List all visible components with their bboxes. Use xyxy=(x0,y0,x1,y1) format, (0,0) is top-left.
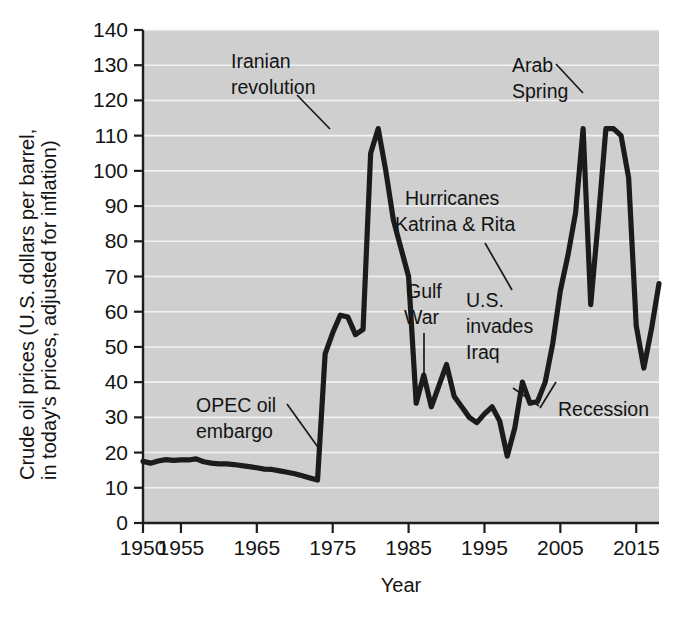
oil-price-line-chart: 0102030405060708090100110120130140 19501… xyxy=(0,0,679,624)
annotation-iranian-revolution-line-0: Iranian xyxy=(231,50,291,72)
x-tick-label: 1955 xyxy=(158,536,205,559)
x-tick-label: 1975 xyxy=(309,536,356,559)
annotation-gulf-war-line-1: War xyxy=(404,306,440,328)
y-tick-label: 80 xyxy=(105,229,128,252)
annotation-us-invades-iraq-line-2: Iraq xyxy=(466,341,500,363)
y-tick-label: 20 xyxy=(105,441,128,464)
y-tick-label: 0 xyxy=(116,511,128,534)
annotation-recession: Recession xyxy=(558,398,649,420)
y-axis-title-line-2: in today's prices, adjusted for inflatio… xyxy=(38,140,60,480)
y-tick-label: 50 xyxy=(105,335,128,358)
x-axis-ticks xyxy=(143,523,636,533)
x-tick-label: 2015 xyxy=(613,536,660,559)
y-axis-title-line-1: Crude oil prices (U.S. dollars per barre… xyxy=(16,129,38,480)
y-axis-tick-labels: 0102030405060708090100110120130140 xyxy=(93,18,128,534)
y-tick-label: 40 xyxy=(105,370,128,393)
annotation-gulf-war-line-0: Gulf xyxy=(406,280,442,302)
annotation-arab-spring-line-0: Arab xyxy=(512,54,553,76)
annotation-opec-line-1: embargo xyxy=(196,420,273,442)
x-axis-title: Year xyxy=(381,574,422,596)
x-axis-tick-labels: 19501955196519751985199520052015 xyxy=(120,536,660,559)
y-axis-ticks xyxy=(134,30,143,523)
annotation-us-invades-iraq-line-0: U.S. xyxy=(466,289,504,311)
annotation-hurricanes-line-0: Hurricanes xyxy=(405,187,500,209)
annotation-opec-line-0: OPEC oil xyxy=(196,394,276,416)
annotation-recession-line-0: Recession xyxy=(558,398,649,420)
annotation-iranian-revolution-line-1: revolution xyxy=(231,76,316,98)
x-tick-label: 1995 xyxy=(461,536,508,559)
annotation-hurricanes-line-1: Katrina & Rita xyxy=(395,213,515,235)
annotation-arab-spring-line-1: Spring xyxy=(512,80,568,102)
y-tick-label: 120 xyxy=(93,88,128,111)
y-tick-label: 110 xyxy=(95,124,128,147)
annotation-us-invades-iraq-line-1: invades xyxy=(466,315,533,337)
y-tick-label: 90 xyxy=(105,194,128,217)
chart-container: 0102030405060708090100110120130140 19501… xyxy=(0,0,679,624)
y-tick-label: 100 xyxy=(93,159,128,182)
x-tick-label: 2005 xyxy=(537,536,584,559)
y-axis-title: Crude oil prices (U.S. dollars per barre… xyxy=(16,129,60,480)
x-tick-label: 1965 xyxy=(233,536,280,559)
y-tick-label: 70 xyxy=(105,265,128,288)
x-tick-label: 1985 xyxy=(385,536,432,559)
y-tick-label: 130 xyxy=(93,53,128,76)
y-tick-label: 10 xyxy=(105,476,128,499)
y-tick-label: 140 xyxy=(93,18,128,41)
y-tick-label: 60 xyxy=(105,300,128,323)
y-tick-label: 30 xyxy=(105,405,128,428)
